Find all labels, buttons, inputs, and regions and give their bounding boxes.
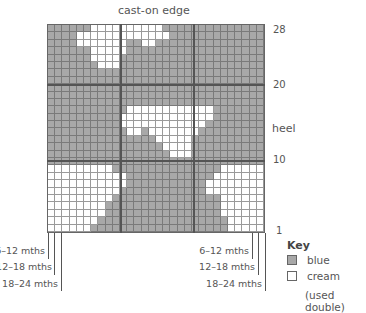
- blue-stitch: [77, 136, 84, 143]
- blue-stitch: [228, 47, 235, 54]
- blue-stitch: [199, 62, 206, 69]
- size-label-right-6-12: 6–12 mths: [199, 245, 249, 256]
- cream-stitch: [70, 173, 77, 180]
- cream-stitch: [250, 188, 257, 195]
- blue-stitch: [242, 136, 249, 143]
- chart-title: cast-on edge: [118, 4, 190, 17]
- blue-stitch: [127, 69, 134, 76]
- cream-stitch: [257, 210, 264, 217]
- blue-stitch: [178, 225, 185, 232]
- blue-stitch: [48, 62, 55, 69]
- cream-stitch: [163, 114, 170, 121]
- blue-stitch: [48, 25, 55, 32]
- cream-stitch: [149, 128, 156, 135]
- blue-stitch: [149, 202, 156, 209]
- blue-stitch: [149, 165, 156, 172]
- blue-stitch: [163, 188, 170, 195]
- cream-stitch: [178, 121, 185, 128]
- blue-stitch: [142, 47, 149, 54]
- blue-stitch: [62, 151, 69, 158]
- cream-stitch: [106, 55, 113, 62]
- blue-stitch: [98, 114, 105, 121]
- cream-stitch: [48, 165, 55, 172]
- blue-stitch: [55, 32, 62, 39]
- blue-stitch: [142, 136, 149, 143]
- blue-stitch: [98, 121, 105, 128]
- cream-stitch: [199, 114, 206, 121]
- blue-stitch: [149, 62, 156, 69]
- blue-stitch: [228, 25, 235, 32]
- cream-stitch: [84, 217, 91, 224]
- blue-stitch: [106, 143, 113, 150]
- cream-stitch: [228, 188, 235, 195]
- blue-stitch: [91, 69, 98, 76]
- blue-stitch: [214, 69, 221, 76]
- blue-stitch: [214, 165, 221, 172]
- cream-stitch: [221, 195, 228, 202]
- blue-stitch: [127, 210, 134, 217]
- blue-stitch: [134, 143, 141, 150]
- blue-stitch: [113, 136, 120, 143]
- blue-stitch: [106, 99, 113, 106]
- blue-stitch: [77, 47, 84, 54]
- blue-stitch: [228, 55, 235, 62]
- cream-stitch: [70, 188, 77, 195]
- blue-stitch: [199, 69, 206, 76]
- blue-stitch: [214, 143, 221, 150]
- row-label-20: 20: [273, 79, 286, 90]
- cream-stitch: [84, 40, 91, 47]
- blue-stitch: [170, 202, 177, 209]
- cream-stitch: [185, 128, 192, 135]
- blue-stitch: [185, 62, 192, 69]
- blue-stitch: [142, 143, 149, 150]
- blue-stitch: [98, 69, 105, 76]
- cream-stitch: [142, 25, 149, 32]
- blue-stitch: [48, 121, 55, 128]
- blue-stitch: [84, 106, 91, 113]
- cream-stitch: [55, 195, 62, 202]
- blue-stitch: [156, 151, 163, 158]
- blue-stitch: [134, 69, 141, 76]
- blue-stitch: [113, 114, 120, 121]
- cream-stitch: [48, 195, 55, 202]
- blue-stitch: [113, 121, 120, 128]
- blue-stitch: [221, 47, 228, 54]
- blue-stitch: [206, 69, 213, 76]
- cream-stitch: [156, 25, 163, 32]
- blue-stitch: [70, 47, 77, 54]
- cream-stitch: [48, 202, 55, 209]
- blue-stitch: [70, 69, 77, 76]
- cream-stitch: [228, 173, 235, 180]
- blue-stitch: [250, 151, 257, 158]
- blue-stitch: [235, 136, 242, 143]
- blue-stitch: [221, 55, 228, 62]
- blue-stitch: [163, 225, 170, 232]
- blue-stitch: [113, 195, 120, 202]
- cream-stitch: [84, 225, 91, 232]
- cream-stitch: [106, 62, 113, 69]
- blue-stitch: [206, 128, 213, 135]
- blue-stitch: [199, 32, 206, 39]
- blue-stitch: [214, 47, 221, 54]
- blue-stitch: [106, 92, 113, 99]
- blue-stitch: [214, 217, 221, 224]
- blue-stitch: [257, 106, 264, 113]
- cream-stitch: [113, 180, 120, 187]
- cream-stitch: [242, 180, 249, 187]
- blue-stitch: [170, 217, 177, 224]
- blue-stitch: [250, 92, 257, 99]
- cream-stitch: [48, 180, 55, 187]
- cream-stitch: [62, 180, 69, 187]
- blue-stitch: [221, 217, 228, 224]
- knitting-chart-grid: [47, 24, 265, 233]
- blue-stitch: [55, 69, 62, 76]
- cream-swatch-icon: [287, 271, 297, 281]
- cream-stitch: [250, 202, 257, 209]
- blue-stitch: [127, 195, 134, 202]
- blue-stitch: [156, 210, 163, 217]
- blue-stitch: [250, 47, 257, 54]
- cream-stitch: [156, 114, 163, 121]
- cream-stitch: [178, 128, 185, 135]
- cream-stitch: [84, 32, 91, 39]
- blue-stitch: [77, 99, 84, 106]
